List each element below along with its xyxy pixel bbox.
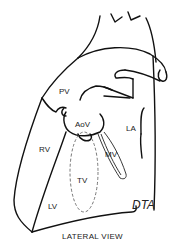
tricuspid-valve-ring [70,132,98,212]
figure-caption: LATERAL VIEW [62,232,123,241]
label-rv: RV [39,145,51,154]
pulmonary-trunk [42,58,133,112]
heart-lateral-view-diagram: PV AoV LA RV MV TV LV DTA LATERAL VIEW [0,0,177,252]
label-mv: MV [105,150,118,159]
label-dta: DTA [132,198,155,212]
label-aov: AoV [75,120,91,129]
label-tv: TV [77,176,88,185]
label-pv: PV [59,87,70,96]
label-lv: LV [48,202,58,211]
label-la: LA [126,124,136,133]
